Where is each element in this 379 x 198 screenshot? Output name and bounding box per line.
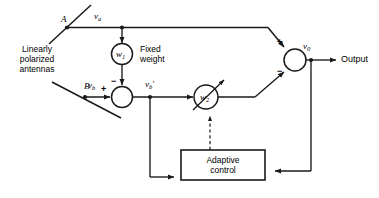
- junction-dot-vb-prime-branch: [148, 95, 152, 99]
- junction-dot-v0-branch: [309, 58, 313, 62]
- antennas-label-line1: Linearly: [6, 44, 68, 54]
- signal-label-vb-sub: b: [92, 84, 95, 91]
- fixed-weight-label-line2: weight: [140, 54, 165, 64]
- antenna-a-element: [49, 5, 91, 44]
- adaptive-weight-symbol-sub: 2: [206, 96, 209, 103]
- antenna-a-label: A: [61, 14, 67, 25]
- sign-plus-sum-output: +: [277, 37, 282, 48]
- signal-label-vb-prime-sub: b: [149, 83, 152, 90]
- output-label: Output: [341, 54, 368, 65]
- antennas-label: Linearly polarized antennas: [6, 44, 68, 74]
- antennas-label-line3: antennas: [6, 64, 68, 74]
- sign-minus-sum1: −: [111, 76, 116, 87]
- signal-label-va-sub: a: [98, 15, 101, 22]
- fixed-weight-symbol-sub: 1: [122, 53, 125, 60]
- signal-label-vb-prime-mark: ': [152, 79, 154, 89]
- sign-plus-sum1: +: [101, 84, 106, 95]
- signal-label-vb-prime: vb': [145, 79, 154, 90]
- block-diagram: Linearly polarized antennas A B va vb vb…: [0, 0, 379, 198]
- summing-junction-output: [284, 49, 306, 71]
- sign-minus-sum-output: −: [277, 66, 282, 77]
- adaptive-control-label-line2: control: [181, 165, 265, 175]
- fixed-weight-label-line1: Fixed: [140, 44, 165, 54]
- fixed-weight-symbol: w1: [116, 49, 125, 60]
- summing-junction-1: [112, 87, 133, 108]
- junction-dot-antenna-a: [65, 25, 69, 29]
- signal-label-vb: vb: [88, 80, 95, 91]
- fixed-weight-label: Fixed weight: [140, 44, 165, 64]
- junction-dot-w1-branch: [120, 25, 124, 29]
- adaptive-control-label-line1: Adaptive: [181, 155, 265, 165]
- signal-label-va: va: [94, 11, 101, 22]
- antennas-label-line2: polarized: [6, 54, 68, 64]
- adaptive-weight-symbol: w2: [200, 92, 209, 103]
- signal-label-v0-sub: 0: [307, 45, 310, 52]
- adaptive-control-label: Adaptive control: [181, 155, 265, 175]
- signal-label-v0: v0: [303, 41, 310, 52]
- junction-dot-antenna-b: [83, 95, 87, 99]
